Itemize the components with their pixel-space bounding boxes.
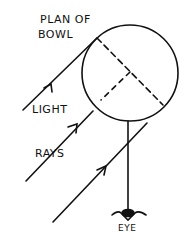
label-light: LIGHT [32, 104, 67, 115]
light-ray-2 [26, 111, 93, 181]
title-line-1: PLAN OF [40, 14, 91, 25]
dashed-perpendicular [101, 72, 130, 100]
bowl-light-diagram: PLAN OF BOWL LIGHT RAYS EYE [0, 0, 195, 246]
title-line-2: BOWL [38, 29, 73, 40]
label-rays: RAYS [35, 148, 65, 159]
label-eye: EYE [118, 224, 136, 233]
diagram-drawing [0, 0, 195, 246]
eye-pupil-icon [122, 210, 134, 217]
light-ray-1 [23, 38, 97, 110]
ray-1-arrow-icon [44, 84, 52, 92]
